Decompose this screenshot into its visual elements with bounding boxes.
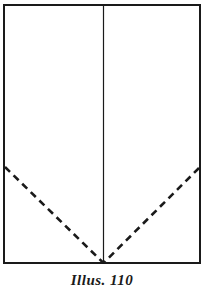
paper-folding-diagram [0, 0, 204, 270]
figure-caption: Illus. 110 [0, 272, 204, 287]
figure-illustration: Illus. 110 [0, 0, 204, 287]
paper-sheet-outline [4, 5, 200, 263]
